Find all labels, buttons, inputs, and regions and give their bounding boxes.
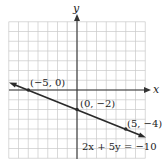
point-label-5-neg4: (5, −4) xyxy=(127,118,162,129)
equation-label: 2x + 5y = −10 xyxy=(82,141,157,152)
coordinate-graph: y x (−5, 0) (0, −2) (5, −4) 2x + 5y = −1… xyxy=(0,0,165,168)
point-label-0-neg2: (0, −2) xyxy=(80,98,115,109)
y-axis xyxy=(74,14,80,159)
x-axis-arrow-icon xyxy=(144,87,151,93)
point-0-neg2 xyxy=(75,108,79,112)
x-axis-label: x xyxy=(153,83,160,96)
line-arrow-left-icon xyxy=(9,83,17,88)
line-arrow-right-icon xyxy=(138,132,146,137)
y-axis-arrow-icon xyxy=(74,14,80,21)
y-axis-label: y xyxy=(72,2,80,15)
point-label-neg5-0: (−5, 0) xyxy=(30,77,65,88)
point-neg5-0 xyxy=(27,88,31,92)
graph-canvas: y x (−5, 0) (0, −2) (5, −4) 2x + 5y = −1… xyxy=(0,0,165,168)
